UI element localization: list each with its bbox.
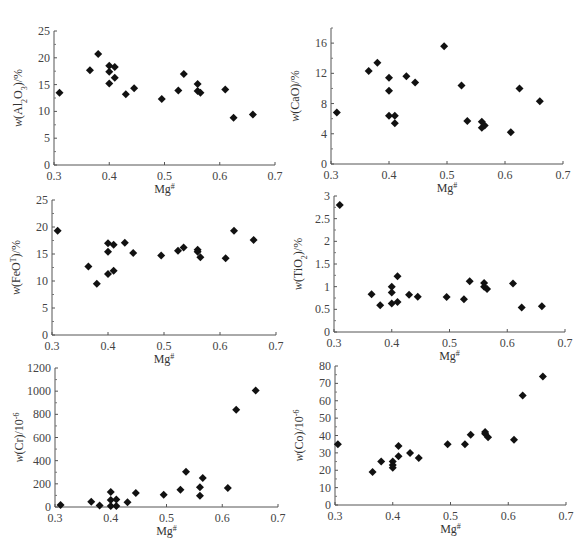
data-point-diamond — [57, 501, 65, 509]
data-point-diamond — [157, 252, 165, 260]
x-tick-label: 0.5 — [442, 336, 457, 350]
data-point-diamond — [460, 295, 468, 303]
y-axis-label: w(FeOT)/% — [9, 240, 24, 295]
data-point-diamond — [132, 489, 140, 497]
x-tick-label: 0.6 — [501, 509, 516, 523]
x-tick-label: 0.4 — [384, 336, 399, 350]
data-point-diamond — [232, 406, 240, 414]
x-tick-label: 0.6 — [215, 511, 230, 525]
y-tick-label: 80 — [319, 359, 331, 373]
x-tick-label: 0.5 — [159, 511, 174, 525]
data-point-diamond — [518, 304, 526, 312]
data-point-diamond — [94, 50, 102, 58]
x-tick-label: 0.4 — [103, 511, 118, 525]
x-axis-label: Mg# — [154, 182, 175, 197]
data-point-diamond — [365, 67, 373, 75]
data-point-diamond — [538, 302, 546, 310]
data-point-diamond — [463, 117, 471, 125]
data-point-diamond — [107, 488, 115, 496]
data-point-diamond — [444, 440, 452, 448]
data-point-diamond — [111, 74, 119, 82]
data-point-diamond — [221, 85, 229, 93]
data-point-diamond — [466, 277, 474, 285]
scatter-panel-co: 010203040506070800.30.40.50.60.7Mg#w(Co)… — [292, 359, 574, 536]
data-point-diamond — [104, 248, 112, 256]
data-point-diamond — [394, 272, 402, 280]
data-point-diamond — [180, 70, 188, 78]
data-point-diamond — [377, 458, 385, 466]
data-point-diamond — [414, 293, 422, 301]
data-point-diamond — [440, 42, 448, 50]
y-tick-label: 25 — [38, 24, 50, 38]
x-tick-label: 0.3 — [48, 511, 63, 525]
data-point-diamond — [54, 227, 62, 235]
data-point-diamond — [391, 119, 399, 127]
x-axis-label: Mg# — [154, 352, 175, 367]
data-point-diamond — [536, 97, 544, 105]
x-tick-label: 0.3 — [327, 336, 342, 350]
y-tick-label: 2.5 — [315, 212, 330, 226]
y-tick-label: 20 — [38, 51, 50, 65]
data-point-diamond — [519, 392, 527, 400]
x-tick-label: 0.3 — [45, 339, 60, 353]
x-tick-label: 0.7 — [558, 336, 573, 350]
y-tick-label: 4 — [321, 127, 327, 141]
scatter-panel-cao: 04812160.30.40.50.60.7Mg#w(CaO)/% — [288, 28, 571, 195]
data-point-diamond — [509, 279, 517, 287]
data-point-diamond — [539, 372, 547, 380]
data-point-diamond — [336, 201, 344, 209]
data-point-diamond — [87, 498, 95, 506]
data-point-diamond — [105, 80, 113, 88]
data-point-diamond — [105, 68, 113, 76]
y-tick-label: 30 — [319, 446, 331, 460]
x-tick-label: 0.6 — [213, 339, 228, 353]
x-tick-label: 0.5 — [443, 509, 458, 523]
data-point-diamond — [224, 484, 232, 492]
y-tick-label: 50 — [319, 411, 331, 425]
data-point-diamond — [96, 502, 104, 510]
x-axis-label: Mg# — [440, 522, 461, 537]
data-point-diamond — [461, 440, 469, 448]
y-tick-label: 20 — [319, 463, 331, 477]
data-point-diamond — [93, 280, 101, 288]
x-axis-label: Mg# — [437, 181, 458, 196]
data-point-diamond — [402, 72, 410, 80]
data-point-diamond — [252, 387, 260, 395]
x-tick-label: 0.4 — [385, 509, 400, 523]
data-point-diamond — [158, 95, 166, 103]
y-tick-label: 16 — [315, 36, 327, 50]
x-tick-label: 0.7 — [271, 511, 286, 525]
data-point-diamond — [56, 89, 64, 97]
data-point-diamond — [176, 486, 184, 494]
data-point-diamond — [160, 491, 168, 499]
y-axis-label: w(Cr)/10-6 — [12, 412, 27, 462]
data-point-diamond — [395, 442, 403, 450]
x-tick-label: 0.6 — [212, 169, 227, 183]
y-tick-label: 5 — [42, 301, 48, 315]
data-point-diamond — [112, 502, 120, 510]
data-point-diamond — [385, 74, 393, 82]
data-point-diamond — [123, 498, 131, 506]
data-point-diamond — [194, 80, 202, 88]
data-point-diamond — [391, 112, 399, 120]
data-point-diamond — [368, 290, 376, 298]
y-tick-label: 8 — [321, 97, 327, 111]
y-axis-label: w(CaO)/% — [288, 70, 302, 121]
y-tick-label: 25 — [36, 193, 48, 207]
y-tick-label: 15 — [38, 78, 50, 92]
data-point-diamond — [230, 114, 238, 122]
data-point-diamond — [510, 436, 518, 444]
x-tick-label: 0.7 — [268, 169, 283, 183]
y-tick-label: 1.5 — [315, 257, 330, 271]
y-axis-label: w(Co)/10-6 — [292, 409, 307, 461]
y-axis-label: w(Al2O3)/% — [11, 69, 29, 127]
y-tick-label: 1 — [324, 280, 330, 294]
y-tick-label: 200 — [33, 477, 51, 491]
scatter-figure: 05101520250.30.40.50.60.7Mg#w(Al2O3)/%04… — [0, 0, 585, 556]
data-point-diamond — [394, 298, 402, 306]
data-point-diamond — [405, 291, 413, 299]
data-point-diamond — [174, 86, 182, 94]
y-tick-label: 10 — [36, 274, 48, 288]
scatter-panel-feot: 05101520250.30.40.50.60.7Mg#w(FeOT)/% — [9, 193, 284, 366]
data-point-diamond — [84, 262, 92, 270]
